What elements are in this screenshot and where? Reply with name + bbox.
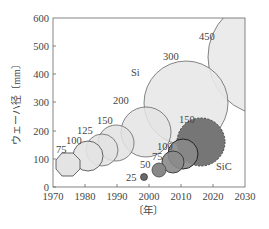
si-label-75: 75 bbox=[56, 144, 67, 155]
x-tick-label: 2010 bbox=[171, 191, 192, 202]
x-tick-label: 2030 bbox=[235, 191, 256, 202]
sic-bubble-50 bbox=[152, 163, 166, 177]
si-label-125: 125 bbox=[77, 125, 93, 136]
si-label-300: 300 bbox=[163, 51, 179, 62]
si-label-150: 150 bbox=[97, 115, 113, 126]
x-axis bbox=[85, 184, 213, 187]
sic-label-75: 75 bbox=[152, 151, 163, 162]
y-tick-label: 400 bbox=[33, 69, 49, 80]
x-tick-label: 2000 bbox=[139, 191, 160, 202]
sic-label-25: 25 bbox=[126, 172, 137, 183]
x-tick-label: 1990 bbox=[107, 191, 128, 202]
y-tick-label: 500 bbox=[33, 41, 49, 52]
sic-label-50: 50 bbox=[140, 159, 151, 170]
x-tick-label: 2020 bbox=[203, 191, 224, 202]
y-tick-label: 300 bbox=[33, 97, 49, 108]
si-label-450: 450 bbox=[199, 31, 215, 42]
si-label-100: 100 bbox=[66, 135, 82, 146]
sic-bubble-25 bbox=[141, 174, 148, 181]
si-bubble-75 bbox=[56, 153, 80, 176]
x-axis-title: 〔年〕 bbox=[133, 204, 163, 216]
si-label-200: 200 bbox=[113, 95, 129, 106]
y-axis-title: ウェーハ径〔mm〕 bbox=[10, 59, 22, 145]
y-tick-label: 200 bbox=[33, 126, 49, 137]
x-tick-label: 1980 bbox=[75, 191, 96, 202]
y-tick-label: 100 bbox=[33, 154, 49, 165]
x-tick-label: 1970 bbox=[43, 191, 64, 202]
sic-label-100: 100 bbox=[157, 141, 173, 152]
sic-series-label: SiC bbox=[216, 161, 232, 172]
si-series-label: Si bbox=[131, 67, 140, 78]
y-tick-label: 600 bbox=[33, 13, 49, 24]
sic-label-150: 150 bbox=[179, 114, 195, 125]
bubble-chart: 0 100 200 300 400 500 600 1970 1980 1990… bbox=[0, 0, 269, 229]
